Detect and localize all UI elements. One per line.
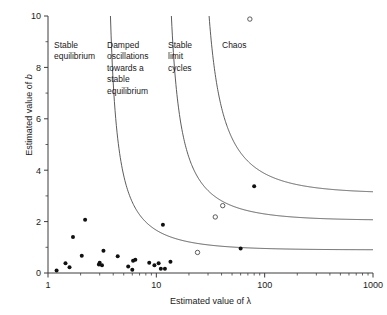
annotation-stable-limit-cycles: Stable limit cycles bbox=[168, 40, 208, 74]
filled-data-point bbox=[130, 268, 134, 272]
filled-data-point bbox=[133, 258, 137, 262]
filled-data-point bbox=[147, 261, 151, 265]
filled-data-point bbox=[152, 263, 156, 267]
annotation-stable-equilibrium: Stable equilibrium bbox=[54, 40, 100, 63]
filled-data-point bbox=[163, 267, 167, 271]
chart-figure: 0246810 1101001000 Stable equilibrium Da… bbox=[0, 0, 387, 315]
x-tick-label-1: 1 bbox=[45, 280, 50, 290]
filled-data-point bbox=[157, 261, 161, 265]
x-tick-label-1000: 1000 bbox=[363, 280, 383, 290]
open-data-point bbox=[248, 17, 252, 21]
filled-data-point bbox=[63, 261, 67, 265]
filled-data-point bbox=[252, 184, 256, 188]
filled-data-point bbox=[168, 260, 172, 264]
open-data-point bbox=[213, 215, 217, 219]
x-tick-label-100: 100 bbox=[257, 280, 272, 290]
y-tick-label-0: 0 bbox=[36, 268, 41, 278]
filled-data-point bbox=[68, 265, 72, 269]
y-tick-label-10: 10 bbox=[31, 11, 41, 21]
y-tick-label-6: 6 bbox=[36, 114, 41, 124]
filled-data-point bbox=[161, 223, 165, 227]
open-data-point bbox=[195, 250, 199, 254]
filled-data-point bbox=[126, 265, 130, 269]
y-axis-title-symbol: b bbox=[24, 74, 34, 79]
filled-data-point bbox=[83, 218, 87, 222]
filled-data-point bbox=[239, 247, 243, 251]
y-axis-title-prefix: Estimated value of bbox=[24, 79, 34, 156]
x-tick-label-10: 10 bbox=[151, 280, 161, 290]
filled-data-point bbox=[101, 249, 105, 253]
x-axis-ticks: 1101001000 bbox=[45, 273, 383, 290]
y-axis-title: Estimated value of b bbox=[24, 40, 34, 190]
filled-data-point bbox=[71, 235, 75, 239]
filled-data-point bbox=[80, 254, 84, 258]
open-data-point bbox=[221, 203, 225, 207]
filled-data-point bbox=[100, 263, 104, 267]
filled-data-point bbox=[116, 254, 120, 258]
filled-data-point bbox=[55, 268, 59, 272]
x-axis-title: Estimated value of λ bbox=[48, 296, 373, 306]
y-tick-label-4: 4 bbox=[36, 166, 41, 176]
y-tick-label-8: 8 bbox=[36, 63, 41, 73]
filled-data-point bbox=[159, 267, 163, 271]
y-tick-label-2: 2 bbox=[36, 217, 41, 227]
annotation-chaos: Chaos bbox=[222, 40, 262, 51]
annotation-damped-oscillations: Damped oscillations towards a stable equ… bbox=[107, 40, 159, 97]
